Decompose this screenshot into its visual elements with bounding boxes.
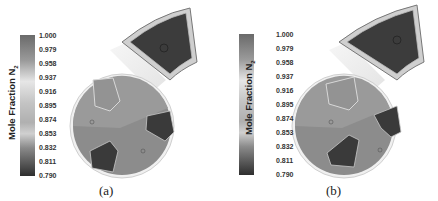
- caption-b: (b): [326, 183, 341, 199]
- colorbar-label: Mole Fraction N2: [243, 60, 256, 135]
- panel-b: Mole Fraction N2 1.000 0.979 0.958 0.937…: [219, 0, 438, 201]
- caption-a: (a): [99, 183, 113, 199]
- panel-a: Mole Fraction N2 1.000 0.979 0.958 0.937…: [0, 0, 219, 201]
- contour-plot-a: [0, 0, 219, 201]
- colorbar: [20, 35, 35, 176]
- colorbar-label: Mole Fraction N2: [6, 65, 19, 140]
